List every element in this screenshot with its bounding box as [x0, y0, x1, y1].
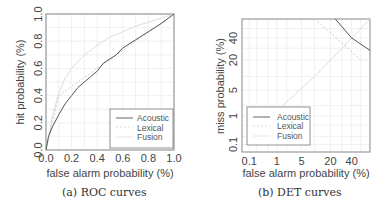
roc-y-tick: 0.4 [32, 88, 44, 103]
det-curve-fusion [282, 19, 370, 106]
det-y-axis-label: miss probability (%) [214, 38, 226, 134]
det-y-ticks: 0.1152040 [227, 32, 239, 152]
legend-fusion-label: Fusion [277, 131, 303, 141]
roc-x-tick: 0.6 [115, 152, 130, 164]
det-x-tick: 40 [346, 155, 358, 167]
det-x-tick: 20 [324, 155, 336, 167]
det-curves [282, 19, 370, 106]
roc-y-tick: 1.0 [32, 6, 44, 21]
roc-chart: 0.00.20.40.60.81.0 0.00.20.40.60.81.0 fa… [14, 6, 182, 179]
det-y-tick: 20 [227, 54, 239, 66]
roc-x-tick: 0.8 [141, 152, 156, 164]
roc-y-tick: 0.8 [32, 34, 44, 49]
legend-lexical-label: Lexical [277, 121, 304, 131]
det-y-tick: 1 [227, 113, 239, 119]
roc-y-axis-label: hit probability (%) [14, 40, 26, 125]
det-legend: Acoustic Lexical Fusion [247, 107, 310, 145]
roc-legend: Acoustic Lexical Fusion [110, 109, 173, 148]
det-x-tick: 0.1 [242, 155, 257, 167]
det-y-tick: 40 [227, 32, 239, 44]
caption-det: (b) DET curves [258, 186, 342, 199]
roc-x-tick: 1.0 [166, 152, 181, 164]
figure: 0.00.20.40.60.81.0 0.00.20.40.60.81.0 fa… [0, 0, 385, 185]
roc-y-ticks: 0.00.20.40.60.81.0 [32, 6, 44, 157]
caption-roc: (a) ROC curves [62, 186, 147, 199]
roc-x-ticks: 0.00.20.40.60.81.0 [38, 152, 181, 164]
det-chart: 0.1152040 0.1152040 false alarm probabil… [214, 19, 370, 179]
roc-x-tick: 0.2 [64, 152, 79, 164]
det-x-ticks: 0.1152040 [242, 155, 358, 167]
roc-y-tick: 0.6 [32, 61, 44, 76]
det-x-tick: 5 [298, 155, 304, 167]
det-x-tick: 1 [274, 155, 280, 167]
roc-x-tick: 0.4 [90, 152, 105, 164]
det-x-axis-label: false alarm probability (%) [242, 167, 369, 179]
roc-y-tick: 0.2 [32, 115, 44, 130]
roc-y-tick: 0.0 [32, 142, 44, 157]
det-y-tick: 5 [227, 87, 239, 93]
roc-x-axis-label: false alarm probability (%) [46, 167, 173, 179]
legend-acoustic-label: Acoustic [137, 113, 170, 123]
legend-fusion-label: Fusion [137, 132, 163, 142]
det-y-tick: 0.1 [227, 137, 239, 152]
